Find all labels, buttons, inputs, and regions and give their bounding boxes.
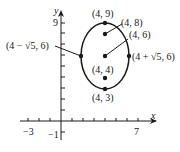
label-4-6: (4, 6) — [129, 29, 151, 41]
label-4-8: (4, 8) — [121, 17, 143, 29]
label-left-vertex: (4 − √5, 6) — [6, 40, 49, 52]
tick-label-neg3: −3 — [23, 126, 34, 137]
point-4-3 — [103, 87, 107, 91]
y-axis-label: y — [53, 5, 59, 16]
tick-label-9: 9 — [53, 17, 58, 28]
label-4-9: (4, 9) — [92, 8, 114, 20]
points — [79, 21, 131, 91]
label-4-3: (4, 3) — [92, 92, 114, 104]
point-4-9 — [103, 21, 107, 25]
tick-label-neg1: −1 — [48, 129, 59, 140]
tick-label-7: 7 — [134, 126, 139, 137]
label-right-vertex: (4 + √5, 6) — [132, 51, 175, 63]
point-right-vertex — [127, 54, 131, 58]
point-4-4 — [103, 76, 107, 80]
ellipse-diagram: −3 −1 7 9 x y (4, 9) (4, 8) (4, 6) (4 + … — [0, 0, 180, 152]
y-ticks — [61, 23, 65, 132]
label-4-4: (4, 4) — [92, 64, 114, 76]
x-axis-label: x — [150, 110, 156, 121]
